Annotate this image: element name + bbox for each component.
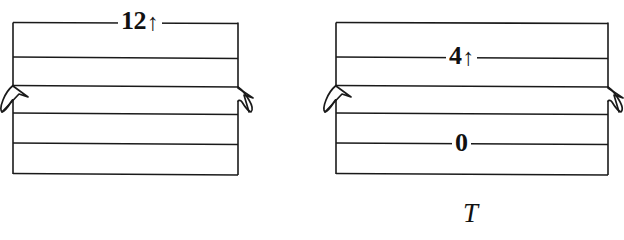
left-line-2 [13, 57, 238, 59]
right-line-top [336, 23, 608, 24]
break-symbol-right-panel-left-inner-icon [325, 86, 351, 112]
right-line-5 [336, 143, 608, 145]
label-4: 4↑ [446, 43, 477, 69]
label-0: 0 [452, 130, 471, 156]
up-arrow-icon: ↑ [463, 45, 475, 69]
label-12-value: 12 [121, 6, 146, 35]
label-4-value: 4 [449, 41, 462, 70]
diagram-canvas [0, 0, 624, 240]
label-12: 12↑ [118, 8, 162, 34]
label-0-value: 0 [455, 128, 468, 157]
left-line-3 [13, 86, 238, 88]
break-symbol-left-outer-icon [1, 86, 13, 113]
break-symbol-left-inner-icon [2, 86, 28, 112]
break-symbol-right-panel-left-outer-icon [324, 86, 336, 113]
left-line-4 [13, 113, 238, 115]
left-line-bottom [13, 174, 238, 176]
left-layer-stack [1, 23, 253, 176]
up-arrow-icon: ↑ [147, 10, 159, 34]
right-line-4 [336, 113, 608, 115]
left-line-5 [13, 143, 238, 145]
axis-label-T: T [463, 200, 478, 227]
right-line-bottom [336, 174, 608, 176]
figure-root: 12↑ 4↑ 0 T [0, 0, 624, 240]
right-line-3 [336, 86, 608, 88]
